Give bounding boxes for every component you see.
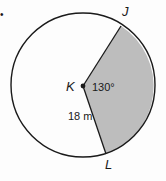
bullet-marker: • (0, 9, 4, 20)
point-l-label: L (105, 157, 112, 172)
angle-label: 130° (92, 81, 115, 93)
point-j-label: J (121, 4, 129, 19)
circle-sector-diagram: • K J L 130° 18 m (0, 0, 166, 181)
center-label: K (66, 79, 76, 94)
radius-label: 18 m (68, 110, 92, 122)
center-point (81, 84, 86, 89)
